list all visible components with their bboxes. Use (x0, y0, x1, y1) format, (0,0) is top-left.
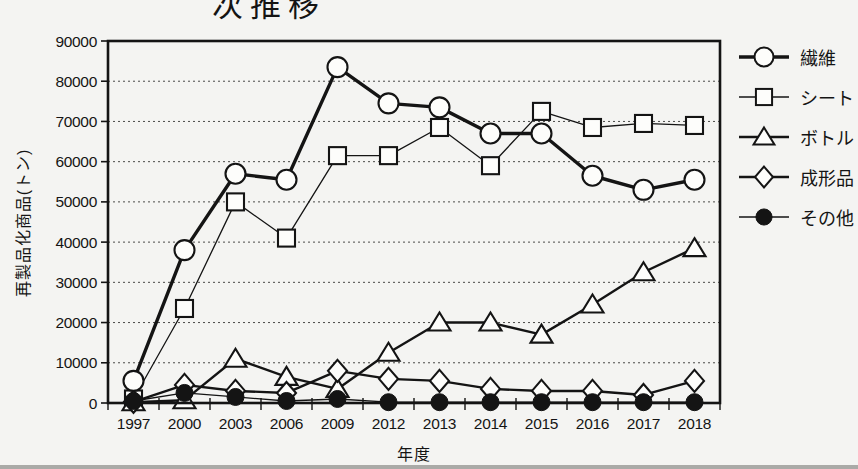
data-point (380, 147, 397, 164)
legend-item-3: 成形品 (737, 164, 854, 190)
y-tick-label: 70000 (55, 113, 97, 130)
y-tick-label: 10000 (55, 354, 97, 371)
series-2 (123, 238, 706, 410)
data-point (532, 124, 552, 144)
x-tick-label: 2016 (576, 415, 609, 432)
x-tick-label: 2009 (321, 415, 354, 432)
y-tick-label: 60000 (55, 153, 97, 170)
plot-border (108, 41, 720, 403)
legend-square-icon (737, 84, 791, 110)
legend-circle-icon (737, 44, 791, 70)
legend-diamond-icon (737, 164, 791, 190)
axis-ticks (101, 41, 720, 410)
data-point (685, 170, 705, 190)
data-point (176, 300, 193, 317)
y-tick-label: 40000 (55, 234, 97, 251)
data-point (226, 164, 246, 184)
legend-item-2: ボトル (737, 124, 854, 150)
legend-triangle-icon (737, 124, 791, 150)
x-tick-label: 2015 (525, 415, 558, 432)
data-point (583, 166, 603, 186)
data-point (533, 103, 550, 120)
data-point (329, 147, 346, 164)
data-point (482, 157, 499, 174)
x-tick-label: 2000 (168, 415, 202, 432)
legend-item-1: シート (737, 84, 854, 110)
data-point (225, 349, 247, 367)
data-point (278, 230, 295, 247)
data-point (277, 170, 297, 190)
legend-label: ボトル (800, 124, 854, 150)
legend-label: 繊維 (800, 44, 836, 70)
data-point (430, 97, 450, 117)
y-tick-label: 90000 (55, 33, 97, 50)
x-tick-label: 2012 (372, 415, 405, 432)
x-tick-label: 2018 (678, 415, 711, 432)
chart-figure: 次推移 再製品化商品(トン) 0100002000030000400005000… (0, 0, 858, 469)
data-point (176, 384, 193, 401)
legend: 繊維シートボトル成形品その他 (737, 44, 854, 230)
data-point (634, 180, 654, 200)
data-point (124, 371, 144, 391)
data-point (379, 93, 399, 113)
scan-edge-artifact (0, 465, 858, 469)
x-tick-label: 2017 (627, 415, 660, 432)
y-tick-label: 30000 (55, 274, 97, 291)
x-tick-label: 2006 (270, 415, 303, 432)
data-point (430, 370, 449, 392)
data-point (328, 57, 348, 77)
data-point (633, 262, 655, 280)
y-tick-label: 20000 (55, 314, 97, 331)
x-tick-label: 2013 (423, 415, 456, 432)
legend-label: シート (800, 84, 854, 110)
data-point (686, 117, 703, 134)
data-point (227, 193, 244, 210)
data-point (125, 392, 142, 409)
y-tick-label: 80000 (55, 73, 97, 90)
data-point (582, 294, 604, 312)
legend-item-0: 繊維 (737, 44, 854, 70)
gridlines (108, 81, 720, 363)
series-1 (125, 103, 703, 408)
y-tick-label: 50000 (55, 193, 97, 210)
series-0 (124, 57, 705, 391)
x-tick-label: 2014 (474, 415, 508, 432)
data-point (635, 115, 652, 132)
data-point (175, 240, 195, 260)
data-point (431, 119, 448, 136)
legend-label: 成形品 (800, 164, 854, 190)
data-point (481, 124, 501, 144)
y-tick-label: 0 (89, 395, 98, 412)
data-point (584, 119, 601, 136)
x-tick-label: 2003 (219, 415, 252, 432)
data-point (329, 390, 346, 407)
y-tick-labels: 0100002000030000400005000060000700008000… (55, 33, 97, 412)
x-tick-label: 1997 (117, 415, 150, 432)
x-tick-labels: 1997200020032006200920122013201420152016… (117, 415, 711, 432)
plot-area: 0100002000030000400005000060000700008000… (0, 0, 858, 469)
data-point (379, 368, 398, 390)
legend-circle-solid-icon (737, 204, 791, 230)
legend-label: その他 (800, 204, 854, 230)
data-point (685, 370, 704, 392)
data-point (378, 343, 400, 361)
data-point (278, 392, 295, 409)
legend-item-4: その他 (737, 204, 854, 230)
x-axis-title: 年度 (108, 441, 720, 465)
data-point (684, 238, 706, 256)
